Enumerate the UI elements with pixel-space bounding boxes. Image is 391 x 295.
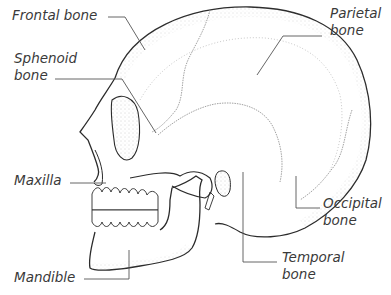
label-mandible: Mandible	[14, 270, 75, 285]
squamosal-suture	[158, 103, 282, 182]
label-temporal-bone-line1: Temporal	[282, 250, 344, 265]
label-sphenoid-bone-line1: Sphenoid	[14, 51, 77, 66]
label-sphenoid-bone-line2: bone	[14, 68, 48, 83]
leader-occipital	[296, 176, 320, 208]
label-parietal-bone-line1: Parietal	[330, 6, 381, 21]
label-temporal-bone-line2: bone	[282, 267, 316, 282]
label-frontal-bone: Frontal bone	[12, 8, 97, 23]
skull-diagram: Frontal bone Parietal bone Sphenoid bone…	[0, 0, 391, 295]
label-occipital-bone-line2: bone	[323, 213, 357, 228]
temporal-line	[140, 38, 342, 170]
label-maxilla: Maxilla	[14, 173, 61, 188]
leader-parietal	[257, 36, 322, 75]
upper-teeth	[92, 188, 158, 211]
label-occipital-bone-line1: Occipital	[323, 196, 382, 211]
styloid-process	[205, 192, 214, 210]
leader-lines	[55, 17, 322, 279]
label-parietal-bone-line2: bone	[330, 23, 364, 38]
leader-temporal	[243, 172, 277, 262]
leader-sphenoid	[55, 79, 156, 133]
mastoid-process	[215, 171, 230, 196]
face-outline	[80, 78, 115, 182]
lower-teeth	[92, 210, 158, 227]
orbit	[111, 96, 139, 159]
